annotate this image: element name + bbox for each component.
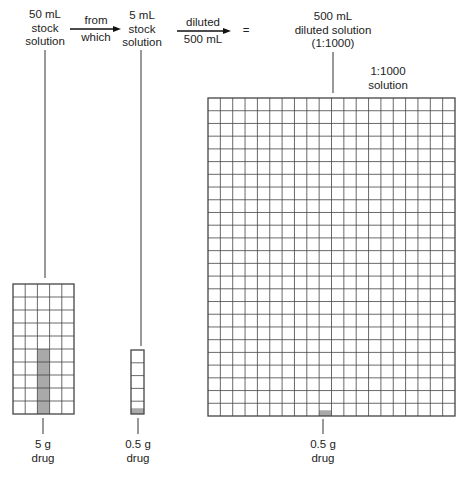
equals-sign: = [243, 24, 250, 38]
label-ratio-solution: 1:1000 solution [368, 65, 408, 92]
label-05g-drug-small: 0.5 g drug [125, 438, 151, 465]
label-500ml-diluted: 500 mL diluted solution (1:1000) [295, 10, 372, 51]
grid-50ml [13, 284, 74, 414]
grids [13, 98, 455, 416]
shaded-cell [319, 410, 331, 416]
label-05g-drug-large: 0.5 g drug [310, 438, 336, 465]
label-diluted-500ml: diluted 500 mL [184, 16, 222, 46]
shaded-cell [37, 375, 49, 388]
shaded-cell [37, 401, 49, 414]
connector-lines [43, 50, 333, 434]
shaded-cell [37, 388, 49, 401]
grid-500ml [208, 98, 455, 416]
label-from-which: from which [81, 14, 110, 44]
label-5ml-stock: 5 mL stock solution [122, 9, 162, 50]
shaded-cell [37, 349, 49, 362]
shaded-cell [131, 408, 144, 414]
label-5g-drug: 5 g drug [31, 438, 54, 465]
label-50ml-stock: 50 mL stock solution [25, 8, 65, 49]
shaded-cell [37, 362, 49, 375]
grid-5ml [131, 350, 144, 414]
